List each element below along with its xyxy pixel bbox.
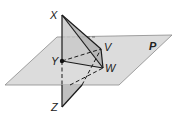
label-y: Y [51, 55, 59, 67]
label-plane-p: P [149, 40, 157, 52]
label-w: W [105, 62, 117, 74]
geometry-diagram: X Y V W Z P [0, 0, 173, 116]
label-z: Z [50, 101, 59, 113]
diagram-canvas: X Y V W Z P [0, 0, 173, 116]
label-x: X [49, 9, 58, 21]
point-y [60, 59, 64, 63]
